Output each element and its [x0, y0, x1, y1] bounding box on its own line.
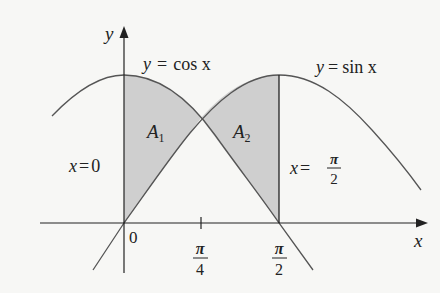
x-axis-arrow-icon [416, 219, 428, 228]
region-a1-shade [124, 75, 201, 223]
svg-text:π: π [196, 240, 206, 257]
tick-label-pi-over-2: π 2 [272, 240, 287, 278]
tick-label-pi-over-4: π 4 [193, 240, 208, 278]
origin-label: 0 [129, 228, 138, 247]
svg-text:x=: x= [289, 158, 310, 178]
area-between-curves-diagram: y x 0 π 4 π 2 y=cos x y=sin x x=0 x= π 2… [0, 0, 440, 293]
y-axis-arrow-icon [120, 26, 129, 38]
svg-text:2: 2 [275, 261, 283, 278]
svg-text:π: π [275, 240, 285, 257]
y-axis-label: y [103, 23, 114, 44]
svg-text:4: 4 [196, 261, 204, 278]
svg-text:π: π [330, 151, 339, 167]
diagram-canvas: y x 0 π 4 π 2 y=cos x y=sin x x=0 x= π 2… [0, 0, 440, 293]
cos-curve-label: y=cos x [141, 54, 211, 74]
svg-text:2: 2 [330, 171, 338, 187]
sin-curve-label: y=sin x [314, 57, 377, 77]
x-axis-label: x [413, 230, 423, 251]
boundary-x-equals-pi-over-2-label: x= π 2 [289, 151, 341, 187]
boundary-x-equals-0-label: x=0 [68, 156, 100, 176]
region-a2-shade [201, 75, 279, 223]
